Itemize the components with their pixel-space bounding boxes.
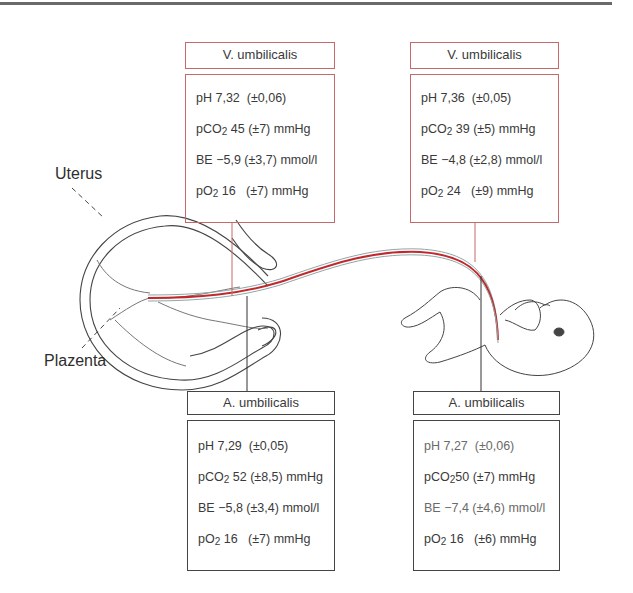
placenta-pointer [82, 308, 120, 348]
row-pco2: pCO2 52 (±8,5) mmHg [198, 470, 323, 485]
row-pco2: pCO2 39 (±5) mmHg [421, 122, 536, 137]
uterus-pointer [72, 188, 104, 218]
artery-box-left: pH 7,29 (±0,05) pCO2 52 (±8,5) mmHg BE −… [187, 420, 335, 571]
row-pco2: pCO250 (±7) mmHg [424, 470, 535, 485]
row-po2: pO2 16 (±7) mmHg [196, 184, 309, 199]
artery-box-right-title: A. umbilicalis [413, 391, 560, 415]
row-ph: pH 7,27 (±0,06) [424, 439, 514, 453]
row-be: BE −5,8 (±3,4) mmol/l [198, 501, 319, 515]
placenta-label: Plazenta [44, 352, 106, 370]
placenta-icon [97, 260, 240, 366]
row-po2: pO2 16 (±7) mmHg [198, 532, 311, 547]
uterus-label: Uterus [55, 165, 102, 183]
vein-box-left-title: V. umbilicalis [185, 42, 335, 69]
row-ph: pH 7,29 (±0,05) [198, 439, 288, 453]
row-po2: pO2 24 (±9) mmHg [421, 184, 534, 199]
artery-box-left-title: A. umbilicalis [187, 391, 335, 415]
row-be: BE −7,4 (±4,6) mmol/l [424, 501, 545, 515]
uterus-outline-icon [80, 216, 281, 390]
row-pco2: pCO2 45 (±7) mmHg [196, 122, 311, 137]
row-be: BE −5,9 (±3,7) mmol/l [196, 153, 317, 167]
row-po2: pO2 16 (±6) mmHg [424, 532, 537, 547]
artery-box-right: pH 7,27 (±0,06) pCO250 (±7) mmHg BE −7,4… [413, 420, 560, 571]
row-ph: pH 7,32 (±0,06) [196, 91, 286, 105]
row-be: BE −4,8 (±2,8) mmol/l [421, 153, 542, 167]
vein-box-right: pH 7,36 (±0,05) pCO2 39 (±5) mmHg BE −4,… [410, 74, 559, 223]
row-ph: pH 7,36 (±0,05) [421, 91, 511, 105]
vein-box-left: pH 7,32 (±0,06) pCO2 45 (±7) mmHg BE −5,… [185, 74, 335, 223]
vein-box-right-title: V. umbilicalis [410, 42, 559, 69]
umbilical-cord-icon [148, 249, 498, 343]
